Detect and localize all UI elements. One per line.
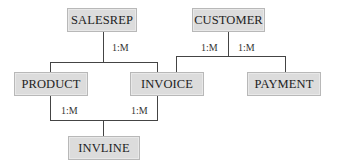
- cardinality-product-invline: 1:M: [61, 105, 78, 116]
- entity-product: PRODUCT: [14, 72, 88, 96]
- entity-invoice: INVOICE: [130, 72, 204, 96]
- cardinality-invoice-invline: 1:M: [131, 105, 148, 116]
- connector-salesrep-stem: [103, 32, 104, 62]
- connector-invline-stem: [103, 120, 104, 136]
- connector-invoice-down: [157, 96, 158, 120]
- connector-salesrep-to-product-drop: [50, 62, 51, 72]
- connector-customer-stem: [228, 32, 229, 56]
- cardinality-salesrep-invoice: 1:M: [112, 42, 129, 53]
- connector-salesrep-to-invoice-drop: [157, 62, 158, 72]
- entity-payment: PAYMENT: [247, 72, 321, 96]
- connector-customer-to-payment-drop: [285, 56, 286, 72]
- connector-product-down: [50, 96, 51, 120]
- entity-salesrep: SALESREP: [67, 8, 137, 32]
- connector-customer-bar: [176, 56, 286, 57]
- entity-customer: CUSTOMER: [192, 8, 265, 32]
- connector-customer-to-invoice-drop: [176, 56, 177, 72]
- cardinality-customer-payment: 1:M: [238, 42, 255, 53]
- cardinality-customer-invoice: 1:M: [201, 42, 218, 53]
- entity-invline: INVLINE: [68, 136, 140, 160]
- connector-invline-bar: [50, 120, 158, 121]
- connector-salesrep-bar: [50, 62, 158, 63]
